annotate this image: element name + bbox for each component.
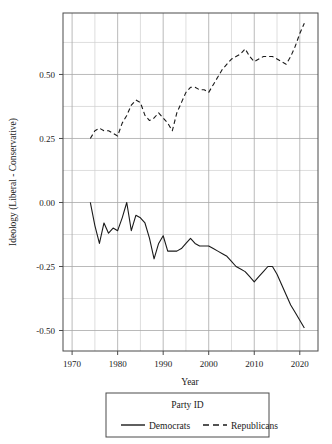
y-axis-title: Ideology (Liberal - Conservative) [8,118,19,246]
y-tick-label: 0.25 [39,134,55,144]
y-tick-label: -0.25 [36,262,55,272]
x-tick-label: 2020 [291,359,310,369]
y-tick-label: 0.50 [39,70,55,80]
legend-title: Party ID [171,400,204,410]
x-axis-title: Year [181,377,199,387]
legend-label-democrats: Democrats [149,421,190,431]
x-tick-label: 2010 [245,359,264,369]
legend: Party ID Democrats Republicans [106,393,278,437]
x-tick-label: 2000 [200,359,219,369]
y-tick-label: 0.00 [39,198,55,208]
legend-label-republicans: Republicans [231,421,278,431]
chart-figure: 1970198019902000201020200.500.250.00-0.2… [0,0,332,444]
y-tick-label: -0.50 [36,326,55,336]
x-tick-label: 1970 [63,359,82,369]
chart-background [0,0,332,444]
x-tick-label: 1980 [109,359,128,369]
x-tick-label: 1990 [154,359,173,369]
ideology-line-chart: 1970198019902000201020200.500.250.00-0.2… [0,0,332,444]
